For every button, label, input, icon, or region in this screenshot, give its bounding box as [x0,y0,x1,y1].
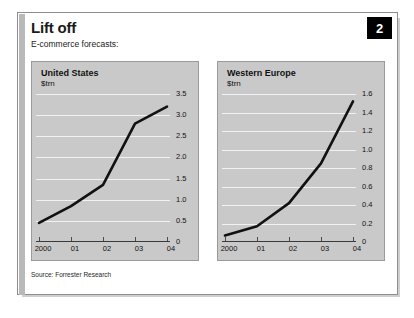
chart-unit-united-states: $trn [41,79,55,89]
x-axis-tick-label: 04 [345,244,369,253]
x-axis-tick-label: 03 [127,244,151,253]
plot-area-united-states: 00.51.01.52.02.53.03.5 [36,94,170,242]
y-axis-tick-label: 0.5 [176,217,186,225]
figure-number-badge: 2 [367,17,392,39]
x-axis-tick-label: 03 [313,244,337,253]
x-axis-labels-united-states: 200001020304 [36,242,196,258]
figure-title: Lift off [31,19,361,36]
y-axis-tick-label: 1.0 [176,196,186,204]
y-axis-tick-label: 2.0 [176,153,186,161]
x-axis-tick-label: 2000 [31,244,55,253]
y-axis-tick-label: 3.5 [176,90,186,98]
figure-left-spine [19,14,25,295]
x-axis-labels-western-europe: 200001020304 [222,242,382,258]
chart-title-united-states: United States [41,68,99,79]
y-axis-tick-label: 1.5 [176,175,186,183]
y-axis-tick-label: 1.0 [362,146,372,154]
y-axis-tick-label: 0.4 [362,201,372,209]
x-axis-tick-label: 04 [159,244,183,253]
x-axis-tick-label: 02 [95,244,119,253]
series-line [222,94,356,242]
chart-panel-western-europe: Western Europe $trn 00.20.40.60.81.01.21… [217,61,385,261]
x-axis-tick-label: 01 [63,244,87,253]
figure-header: Lift off E-commerce forecasts: [31,19,361,50]
chart-title-western-europe: Western Europe [227,68,296,79]
chart-panel-united-states: United States $trn 00.51.01.52.02.53.03.… [31,61,199,261]
y-axis-tick-label: 2.5 [176,132,186,140]
x-axis-tick-label: 01 [249,244,273,253]
chart-unit-western-europe: $trn [227,79,241,89]
y-axis-tick-label: 1.4 [362,109,372,117]
plot-area-western-europe: 00.20.40.60.81.01.21.41.6 [222,94,356,242]
x-axis-tick-label: 02 [281,244,305,253]
x-axis-tick-label: 2000 [217,244,241,253]
series-line [36,94,170,242]
y-axis-tick-label: 3.0 [176,111,186,119]
y-axis-tick-label: 0.2 [362,220,372,228]
source-note: Source: Forrester Research [31,271,111,278]
y-axis-tick-label: 0.8 [362,164,372,172]
figure-subtitle: E-commerce forecasts: [31,38,361,50]
y-axis-tick-label: 1.6 [362,90,372,98]
figure-frame: Lift off E-commerce forecasts: 2 United … [17,12,398,295]
y-axis-tick-label: 1.2 [362,127,372,135]
y-axis-tick-label: 0.6 [362,183,372,191]
figure-shadow-bottom [22,295,400,297]
figure-shadow-right [398,18,400,297]
